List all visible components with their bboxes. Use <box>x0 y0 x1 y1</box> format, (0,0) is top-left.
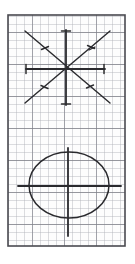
graph-paper-figure-canvas <box>0 0 135 264</box>
scanned-worksheet-page: Graph paper worksheet scan Intersecting … <box>0 0 135 264</box>
